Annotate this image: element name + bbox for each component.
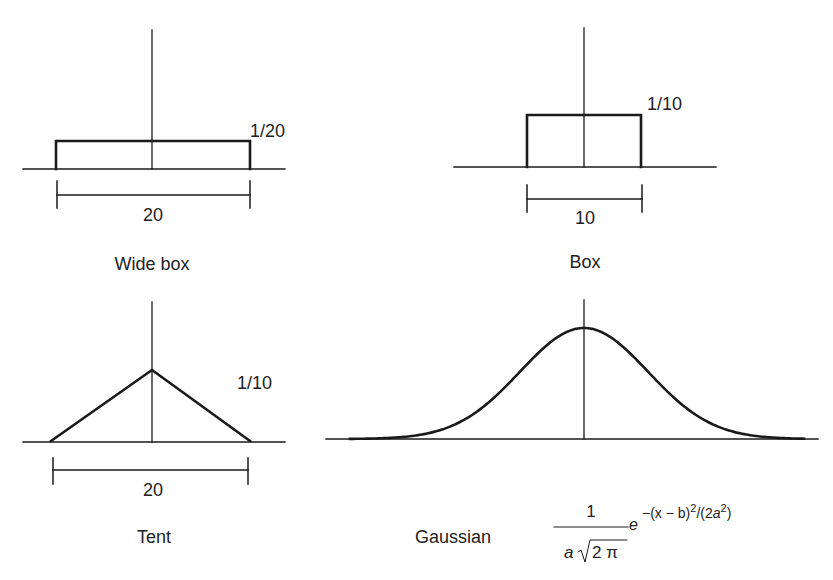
- box-height-label: 1/10: [647, 95, 682, 113]
- tent-shape: [51, 370, 250, 441]
- tent-panel: [23, 302, 285, 484]
- box-width-label: 10: [575, 209, 595, 227]
- wide-box-title: Wide box: [114, 255, 189, 273]
- formula-exponent-term: −(x − b): [642, 505, 690, 521]
- box-title: Box: [569, 253, 600, 271]
- gaussian-curve: [350, 328, 804, 439]
- formula-exponent-close: ): [727, 505, 732, 521]
- tent-title: Tent: [137, 528, 171, 546]
- wide-box-panel: [23, 30, 285, 208]
- formula-numerator: 1: [586, 503, 595, 520]
- formula-exponent-a: a: [713, 505, 721, 521]
- formula-exponent-divisor: /(2: [696, 505, 712, 521]
- tent-height-label: 1/10: [237, 374, 272, 392]
- wide-box-height-label: 1/20: [250, 122, 285, 140]
- wide-box-width-label: 20: [143, 206, 163, 224]
- gaussian-panel: [326, 300, 818, 562]
- gaussian-title: Gaussian: [415, 528, 491, 546]
- formula-exponent-square: 2: [690, 502, 696, 514]
- tent-width-label: 20: [143, 481, 163, 499]
- wide-box-shape: [56, 141, 250, 169]
- formula-base-e: e: [629, 517, 638, 533]
- kernel-diagram: [0, 0, 833, 580]
- box-panel: [454, 28, 716, 212]
- formula-denominator-root: 2 π: [592, 544, 618, 561]
- formula-denominator-a: a: [564, 544, 573, 561]
- formula-exponent: −(x − b)2/(2a2): [642, 506, 731, 520]
- formula-exponent-square-2: 2: [721, 502, 727, 514]
